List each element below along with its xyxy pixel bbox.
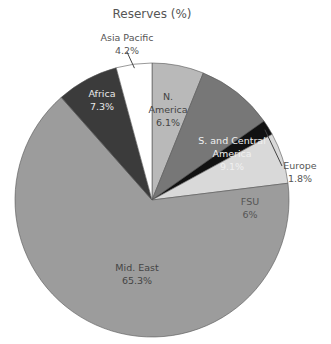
chart-title: Reserves (%)	[112, 7, 191, 21]
pie-chart: Reserves (%) N.America6.1%S. and Central…	[0, 0, 331, 344]
slice-label-europe: Europe1.8%	[283, 160, 317, 184]
